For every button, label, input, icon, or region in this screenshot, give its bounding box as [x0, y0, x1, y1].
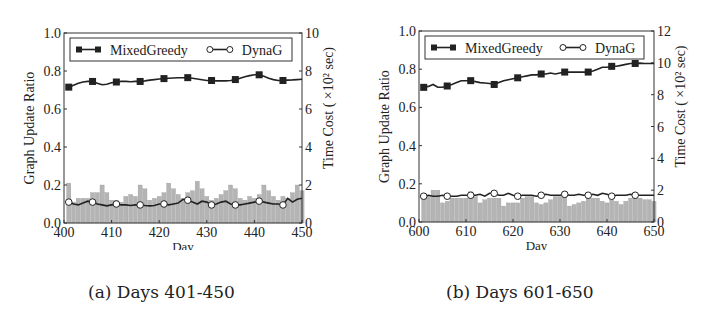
chart-a-plot: 0.00.20.40.60.81.00246810400410420430440…	[0, 0, 360, 250]
bar	[195, 181, 199, 223]
bar	[200, 189, 204, 223]
bar	[492, 198, 496, 222]
filled-square-marker	[514, 74, 521, 81]
filled-square-marker	[65, 84, 72, 91]
x-axis-label: Day	[526, 238, 548, 250]
legend-mixedgreedy: MixedGreedy	[110, 43, 188, 58]
bar	[478, 203, 482, 222]
open-circle-marker	[632, 192, 639, 199]
y-tick-label: 1.0	[44, 26, 62, 41]
bar	[445, 201, 449, 222]
y-tick-label: 0.6	[399, 100, 417, 115]
bar	[647, 200, 651, 222]
x-tick-label: 400	[54, 225, 75, 240]
y-tick-label: 0.2	[399, 177, 417, 192]
y2-axis-label: Time Cost ( ×10² sec)	[321, 47, 337, 169]
y2-tick-label: 10	[657, 56, 671, 71]
filled-square-marker	[89, 78, 96, 85]
filled-square-marker	[538, 70, 545, 77]
y2-tick-label: 6	[657, 120, 664, 135]
bar	[577, 203, 581, 222]
chart-panel-b: 0.00.20.40.60.81.00246810126006106206306…	[360, 0, 720, 250]
bar	[544, 203, 548, 222]
legend: MixedGreedyDynaG	[425, 36, 644, 59]
filled-square-marker	[184, 74, 191, 81]
bar	[610, 200, 614, 222]
bar	[422, 198, 426, 222]
bar	[464, 198, 468, 222]
y2-axis-label: Time Cost ( ×10² sec)	[673, 45, 689, 167]
y2-tick-label: 4	[657, 151, 664, 166]
filled-square-marker	[444, 83, 451, 90]
bar	[76, 198, 80, 223]
x-tick-label: 650	[644, 224, 665, 239]
bar	[487, 198, 491, 222]
bar	[90, 193, 94, 223]
bar	[596, 198, 600, 222]
filled-square-marker	[113, 79, 120, 86]
open-circle-marker	[585, 192, 592, 199]
bar	[162, 193, 166, 223]
filled-square-marker	[467, 77, 474, 84]
x-tick-label: 430	[196, 225, 217, 240]
x-tick-label: 640	[597, 224, 618, 239]
bar	[502, 206, 506, 222]
bar	[600, 201, 604, 222]
filled-square-marker	[208, 77, 215, 84]
y2-tick-label: 6	[305, 102, 312, 117]
bar	[638, 198, 642, 222]
bar	[473, 197, 477, 222]
y-tick-label: 0.6	[44, 102, 62, 117]
chart-b-plot: 0.00.20.40.60.81.00246810126006106206306…	[360, 0, 720, 250]
bar	[219, 195, 223, 224]
bar	[440, 203, 444, 222]
y-tick-label: 0.4	[399, 139, 417, 154]
bar	[290, 193, 294, 223]
filled-square-marker	[585, 69, 592, 76]
y2-tick-label: 10	[305, 26, 319, 41]
dynag-legend-icon	[560, 45, 566, 51]
bar	[563, 197, 567, 222]
x-tick-label: 630	[550, 224, 571, 239]
y-axis-label: Graph Update Ratio	[22, 72, 37, 185]
bar	[133, 196, 137, 223]
bar	[176, 195, 180, 224]
y2-tick-label: 2	[657, 183, 664, 198]
open-circle-marker	[538, 192, 545, 199]
bar	[436, 190, 440, 222]
bar	[614, 201, 618, 222]
open-circle-marker	[113, 201, 120, 208]
open-circle-marker	[420, 193, 427, 200]
y2-tick-label: 12	[657, 24, 671, 39]
bar	[567, 206, 571, 222]
bar	[295, 185, 299, 223]
bar	[520, 198, 524, 222]
open-circle-marker	[232, 202, 239, 209]
y-tick-label: 0.8	[44, 64, 62, 79]
x-tick-label: 610	[456, 224, 477, 239]
bar	[129, 195, 133, 224]
open-circle-marker	[208, 202, 215, 209]
bar	[586, 198, 590, 222]
bar	[148, 200, 152, 223]
open-circle-marker	[256, 198, 263, 205]
bar	[190, 191, 194, 223]
bar	[483, 200, 487, 222]
open-circle-marker	[161, 201, 168, 208]
x-tick-label: 450	[292, 225, 313, 240]
filled-square-marker	[279, 77, 286, 84]
bar	[124, 196, 128, 223]
bar	[591, 198, 595, 222]
mixedgreedy-legend-icon	[431, 45, 437, 51]
x-tick-label: 600	[409, 224, 430, 239]
bar	[628, 198, 632, 222]
open-circle-marker	[491, 190, 498, 197]
plot-frame	[419, 31, 654, 222]
x-axis-label: Day	[172, 239, 194, 250]
bar	[516, 203, 520, 222]
open-circle-marker	[280, 202, 287, 209]
bar	[157, 196, 161, 223]
bar	[238, 198, 242, 223]
bar	[426, 197, 430, 222]
bar	[534, 203, 538, 222]
